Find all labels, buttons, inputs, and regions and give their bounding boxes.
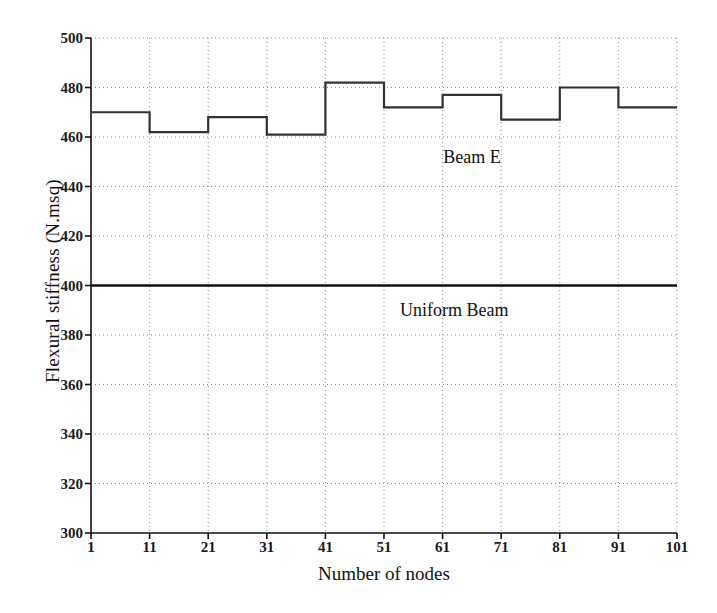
x-tick-label: 1 xyxy=(61,539,121,556)
y-tick-label: 500 xyxy=(29,30,83,47)
y-tick-label: 460 xyxy=(29,129,83,146)
axis-ticks xyxy=(85,38,677,539)
annotation-uniform-beam: Uniform Beam xyxy=(400,300,508,321)
plot-canvas xyxy=(0,0,717,613)
x-tick-label: 51 xyxy=(354,539,414,556)
x-tick-label: 81 xyxy=(530,539,590,556)
y-tick-label: 400 xyxy=(29,277,83,294)
x-tick-label: 91 xyxy=(588,539,648,556)
x-tick-label: 101 xyxy=(647,539,707,556)
y-tick-label: 420 xyxy=(29,228,83,245)
y-tick-label: 340 xyxy=(29,426,83,443)
y-tick-label: 380 xyxy=(29,327,83,344)
x-tick-label: 61 xyxy=(413,539,473,556)
y-tick-label: 360 xyxy=(29,376,83,393)
chart-figure: Flexural stiffness (N.msq) Number of nod… xyxy=(0,0,717,613)
x-tick-label: 41 xyxy=(295,539,355,556)
annotation-beam-e: Beam E xyxy=(443,147,500,168)
y-tick-label: 320 xyxy=(29,475,83,492)
y-tick-label: 480 xyxy=(29,79,83,96)
y-tick-label: 440 xyxy=(29,178,83,195)
x-tick-label: 21 xyxy=(178,539,238,556)
x-tick-label: 71 xyxy=(471,539,531,556)
x-axis-label: Number of nodes xyxy=(91,563,677,585)
x-tick-label: 31 xyxy=(237,539,297,556)
x-tick-label: 11 xyxy=(120,539,180,556)
